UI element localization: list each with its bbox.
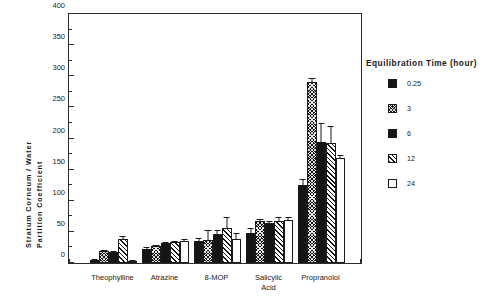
- y-tick-label: 300: [52, 63, 65, 72]
- y-tick-major: [69, 75, 74, 76]
- error-bar: [321, 123, 322, 142]
- error-bar: [260, 219, 261, 221]
- x-tick: [360, 259, 361, 264]
- figure: Stratum Corneum / Water Partition Coeffi…: [0, 0, 493, 302]
- bar-slot: [317, 14, 326, 263]
- bar[interactable]: [142, 249, 151, 263]
- bar-slot: [232, 14, 241, 263]
- bar[interactable]: [255, 221, 264, 263]
- y-tick-label: 200: [52, 125, 65, 134]
- legend-swatch-icon: [388, 129, 397, 138]
- bar-slot: [203, 14, 212, 263]
- bar[interactable]: [203, 240, 212, 263]
- y-tick-major: [69, 44, 74, 45]
- bar[interactable]: [161, 243, 170, 263]
- legend-item[interactable]: 0.25: [388, 79, 490, 88]
- legend-item[interactable]: 3: [388, 104, 490, 113]
- bar-slot: [180, 14, 189, 263]
- bar[interactable]: [265, 223, 274, 263]
- bar[interactable]: [170, 242, 179, 263]
- legend-item-label: 12: [407, 154, 415, 163]
- bar-slot: [128, 14, 137, 263]
- bar-slot: [326, 14, 335, 263]
- bar-slot: [298, 14, 307, 263]
- error-bar: [269, 221, 270, 223]
- bar-group-bars: [90, 14, 137, 263]
- bar[interactable]: [284, 220, 293, 263]
- bar[interactable]: [90, 260, 99, 263]
- legend-item-label: 6: [407, 129, 411, 138]
- legend-swatch-icon: [388, 179, 397, 188]
- y-tick-major: [69, 169, 74, 170]
- bar-slot: [274, 14, 283, 263]
- bar-slot: [170, 14, 179, 263]
- bar-group: [90, 14, 137, 263]
- bar[interactable]: [336, 158, 345, 263]
- bar[interactable]: [222, 228, 231, 263]
- bar[interactable]: [194, 241, 203, 263]
- y-tick-label: 400: [52, 1, 65, 10]
- error-bar: [113, 251, 114, 252]
- error-bar: [174, 241, 175, 242]
- x-axis-label: Propranolol: [281, 273, 361, 283]
- y-tick-minor: [69, 29, 72, 30]
- error-bar: [278, 217, 279, 221]
- bar[interactable]: [232, 239, 241, 263]
- bar[interactable]: [128, 261, 137, 263]
- bar-slot: [142, 14, 151, 263]
- error-bar: [184, 239, 185, 240]
- error-bar: [132, 260, 133, 261]
- error-bar: [104, 250, 105, 251]
- bar[interactable]: [246, 233, 255, 263]
- bar-slot: [307, 14, 316, 263]
- y-tick-minor: [69, 153, 72, 154]
- bar-slot: [336, 14, 345, 263]
- legend-items: 0.25361224: [366, 79, 490, 188]
- bar[interactable]: [274, 221, 283, 263]
- bar-group: [298, 14, 345, 263]
- bar-slot: [255, 14, 264, 263]
- bar-group: [194, 14, 241, 263]
- legend-item[interactable]: 12: [388, 154, 490, 163]
- error-bar: [312, 78, 313, 83]
- y-tick-major: [69, 106, 74, 107]
- y-tick-label: 0: [61, 250, 65, 259]
- bar[interactable]: [118, 239, 127, 263]
- error-bar: [146, 247, 147, 248]
- bar-slot: [161, 14, 170, 263]
- bar-group-bars: [142, 14, 189, 263]
- error-bar: [208, 230, 209, 240]
- bar[interactable]: [180, 241, 189, 263]
- bar[interactable]: [307, 82, 316, 263]
- error-bar: [94, 259, 95, 260]
- bar[interactable]: [151, 246, 160, 263]
- y-tick-major: [69, 200, 74, 201]
- bar[interactable]: [213, 234, 222, 263]
- error-bar: [340, 155, 341, 158]
- error-bar: [302, 179, 303, 185]
- error-bar: [250, 228, 251, 234]
- y-tick-label: 250: [52, 94, 65, 103]
- legend-swatch-icon: [388, 154, 397, 163]
- bar-slot: [90, 14, 99, 263]
- legend-item-label: 24: [407, 179, 415, 188]
- error-bar: [217, 230, 218, 234]
- bar[interactable]: [109, 252, 118, 263]
- bar[interactable]: [317, 142, 326, 263]
- y-tick-label: 150: [52, 156, 65, 165]
- bar-slot: [246, 14, 255, 263]
- bar-slot: [284, 14, 293, 263]
- y-tick-minor: [69, 60, 72, 61]
- bar-slot: [213, 14, 222, 263]
- legend-item[interactable]: 6: [388, 129, 490, 138]
- bar[interactable]: [298, 185, 307, 263]
- bar-slot: [194, 14, 203, 263]
- y-axis-title-line-1: Stratum Corneum / Water: [25, 141, 32, 248]
- y-tick-minor: [69, 122, 72, 123]
- y-tick-major: [69, 138, 74, 139]
- legend-item[interactable]: 24: [388, 179, 490, 188]
- bar[interactable]: [326, 143, 335, 263]
- bar[interactable]: [99, 251, 108, 263]
- y-tick-major: [69, 231, 74, 232]
- plot-area: 050100150200250300350400: [68, 13, 362, 264]
